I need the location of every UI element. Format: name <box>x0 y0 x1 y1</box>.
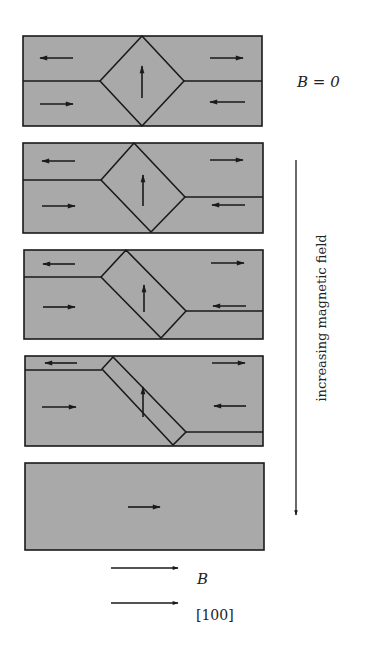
panel-2 <box>23 143 263 233</box>
panel-5-saturated <box>25 463 264 550</box>
legend-label-B: B <box>196 570 208 588</box>
domain-panels <box>23 36 264 550</box>
axis-label: increasing magnetic field <box>314 234 329 401</box>
panel-3 <box>24 250 263 339</box>
zero-field-label-B: B = 0 <box>296 73 340 91</box>
legend <box>111 568 178 603</box>
panel-1-zero-field <box>23 36 262 126</box>
magnetic-domain-diagram: B = 0 increasing magnetic field B [100] <box>0 0 371 646</box>
panel-4 <box>25 356 263 446</box>
legend-label-100: [100] <box>196 607 234 623</box>
